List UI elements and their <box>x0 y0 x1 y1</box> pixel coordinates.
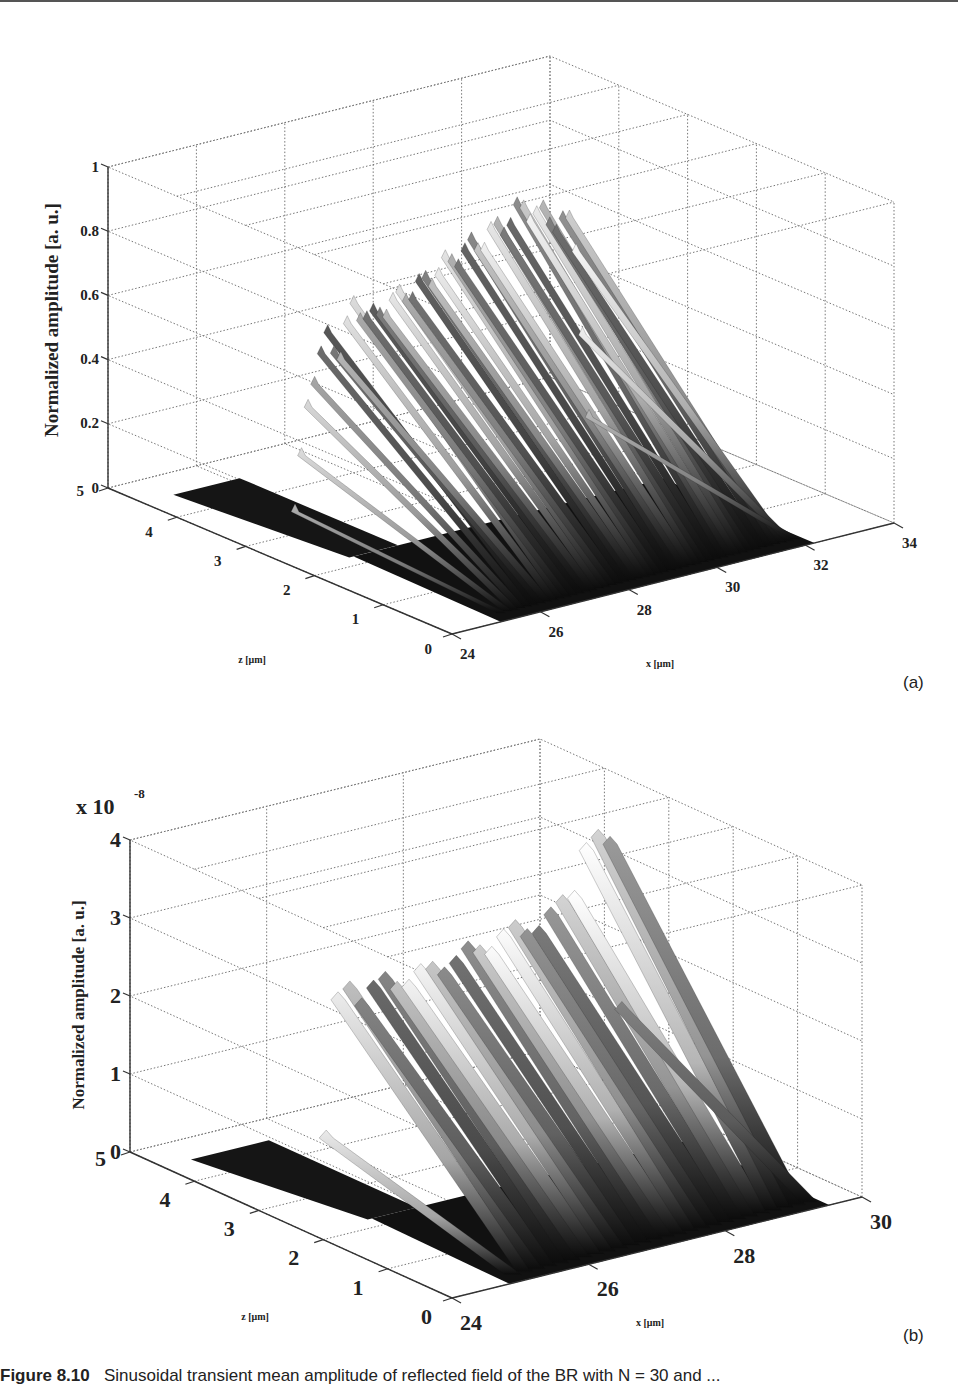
depth-tick-label: 4 <box>159 1187 170 1212</box>
depth-tick-label: 1 <box>352 611 360 627</box>
caption-label: Figure 8.10 <box>0 1366 90 1384</box>
caption-text: Sinusoidal transient mean amplitude of r… <box>104 1366 721 1384</box>
amplitude-axis-label: Normalized amplitude [a. u.] <box>41 203 62 437</box>
panel-a-surface-plot: 00.20.40.60.81012345242628303234Normaliz… <box>0 0 958 700</box>
depth-tick-label: 0 <box>421 1304 432 1329</box>
x-tick-label: 24 <box>460 646 476 662</box>
surface-mesh <box>173 197 814 622</box>
amp-tick-label: 0.6 <box>80 287 99 303</box>
x-tick-label: 28 <box>733 1243 755 1268</box>
x-tick-label: 32 <box>814 557 829 573</box>
figure-caption: Figure 8.10 Sinusoidal transient mean am… <box>0 1366 958 1384</box>
surface-mesh <box>191 829 829 1284</box>
x-tick-label: 26 <box>548 624 564 640</box>
amp-tick-label: 0 <box>92 480 100 496</box>
surface-plot-a: 00.20.40.60.81012345242628303234Normaliz… <box>0 0 958 700</box>
amp-tick-label: 2 <box>110 983 121 1008</box>
amp-tick-label: 0.4 <box>80 351 99 367</box>
depth-axis-label: z [μm] <box>238 654 266 665</box>
x-axis-label: x [μm] <box>636 1317 664 1328</box>
panel-a-tag: (a) <box>903 673 924 693</box>
panel-b-surface-plot: 0123401234524262830Normalized amplitude … <box>0 700 958 1360</box>
surface-plot-b: 0123401234524262830Normalized amplitude … <box>0 700 958 1360</box>
x-tick-label: 30 <box>725 579 740 595</box>
depth-tick-label: 5 <box>95 1146 106 1171</box>
depth-axis-label: z [μm] <box>241 1311 269 1322</box>
depth-tick-label: 0 <box>425 641 433 657</box>
depth-tick-label: 2 <box>283 582 291 598</box>
amp-tick-label: 1 <box>92 159 100 175</box>
amplitude-exponent: -8 <box>134 786 145 801</box>
depth-tick-label: 4 <box>145 524 153 540</box>
x-axis-label: x [μm] <box>646 658 674 669</box>
amplitude-multiplier: x 10 <box>76 794 115 819</box>
x-tick-label: 28 <box>637 602 652 618</box>
x-tick-label: 26 <box>597 1276 619 1301</box>
depth-tick-label: 3 <box>214 553 222 569</box>
amplitude-axis-label: Normalized amplitude [a. u.] <box>69 900 88 1109</box>
x-tick-label: 24 <box>460 1310 482 1335</box>
amp-tick-label: 0.8 <box>80 223 99 239</box>
depth-tick-label: 2 <box>288 1245 299 1270</box>
depth-tick-label: 3 <box>224 1216 235 1241</box>
depth-tick-label: 1 <box>353 1275 364 1300</box>
amp-tick-label: 3 <box>110 905 121 930</box>
amp-tick-label: 4 <box>110 827 121 852</box>
amp-tick-label: 0.2 <box>80 415 99 431</box>
amp-tick-label: 1 <box>110 1061 121 1086</box>
x-tick-label: 30 <box>870 1209 892 1234</box>
panel-b-tag: (b) <box>903 1326 924 1346</box>
amp-tick-label: 0 <box>110 1139 121 1164</box>
x-tick-label: 34 <box>902 535 918 551</box>
depth-tick-label: 5 <box>77 483 85 499</box>
